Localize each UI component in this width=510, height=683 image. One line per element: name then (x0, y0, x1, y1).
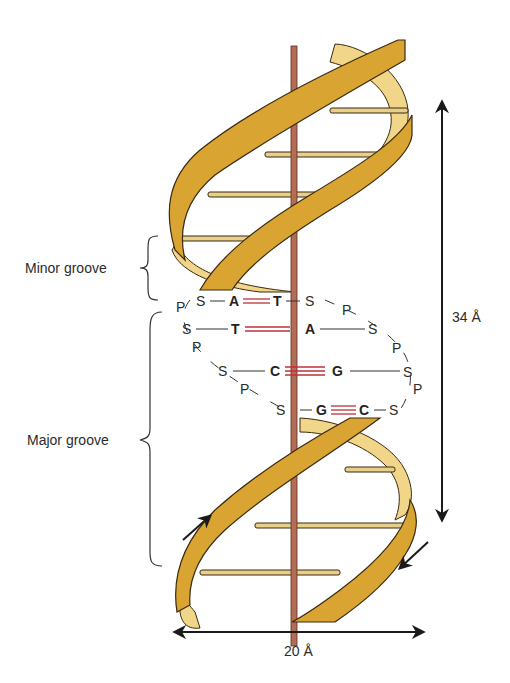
major-groove-label: Major groove (27, 432, 109, 448)
rung (330, 108, 408, 113)
base-A: A (229, 293, 239, 309)
sugar-label: S (368, 321, 377, 337)
sugar-label: S (305, 293, 314, 309)
minor-groove-brace (140, 236, 158, 300)
base-T: T (273, 293, 282, 309)
rung (200, 570, 340, 575)
base-C: C (270, 363, 280, 379)
phosphate-label: P (392, 340, 401, 356)
width-label: 20 Å (284, 643, 313, 659)
major-groove-brace (140, 312, 162, 566)
phosphate-label: P (176, 299, 185, 315)
sugar-label: S (403, 364, 412, 380)
dna-helix-diagram: P S A T S P S T A S P P S C G S P P S (0, 0, 510, 683)
sugar-label: S (276, 402, 285, 418)
sugar-label: S (218, 363, 227, 379)
base-G: G (332, 363, 343, 379)
backbone-left (184, 300, 285, 410)
rung (175, 236, 255, 241)
phosphate-label: P (342, 302, 351, 318)
phosphate-label: P (240, 381, 249, 397)
minor-groove-label: Minor groove (25, 260, 107, 276)
rung (208, 192, 320, 197)
base-A: A (305, 321, 315, 337)
helix-axis-rod (291, 46, 297, 646)
base-G: G (316, 402, 327, 418)
pitch-label: 34 Å (452, 309, 481, 325)
base-pair-section: P S A T S P S T A S P P S C G S P P S (176, 293, 422, 418)
phosphate-label: P (413, 381, 422, 397)
base-T: T (231, 321, 240, 337)
rung (345, 467, 395, 472)
sugar-label: S (389, 402, 398, 418)
sugar-label: S (182, 321, 191, 337)
base-C: C (359, 402, 369, 418)
rung (255, 523, 405, 528)
phosphate-label: P (192, 339, 201, 355)
sugar-label: S (196, 293, 205, 309)
